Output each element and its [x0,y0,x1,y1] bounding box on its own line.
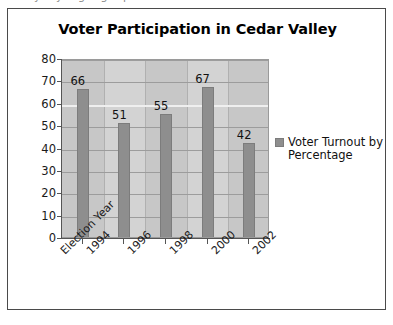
x-axis-tick [165,239,166,244]
x-axis-tick [123,239,124,244]
bar-1998 [160,114,172,237]
y-axis-tick [57,126,62,127]
chart-figure-frame: Voter Participation in Cedar Valley 8070… [7,8,386,310]
bar-1994 [77,89,89,237]
bar-value-label-1994: 66 [70,74,85,88]
clipped-text-sliver: y y g g p [0,0,393,7]
y-axis-tick-label: 30 [12,164,56,178]
legend-label: Voter Turnout by Percentage [288,136,383,162]
y-axis-tick [57,104,62,105]
plot-area [61,59,269,238]
vertical-gridline [145,60,146,237]
vertical-gridline [187,60,188,237]
x-axis-tick [207,239,208,244]
bar-1996 [118,123,130,237]
y-axis-tick-label: 80 [12,52,56,66]
bar-2000 [202,87,214,237]
y-axis-tick [57,149,62,150]
y-axis-labels: 80706050403020100 [8,9,56,311]
legend-color-swatch [275,138,284,147]
y-axis-tick [57,81,62,82]
vertical-gridline [228,60,229,237]
y-axis-tick-label: 10 [12,209,56,223]
chart-title: Voter Participation in Cedar Valley [8,21,387,37]
clipped-text: y y g g p [34,0,136,3]
x-axis-tick [248,239,249,244]
y-axis-tick [57,171,62,172]
y-axis-tick-label: 60 [12,97,56,111]
bar-value-label-2002: 42 [237,128,252,142]
bar-value-label-2000: 67 [195,72,210,86]
y-axis-tick-label: 20 [12,186,56,200]
bar-value-label-1998: 55 [154,99,169,113]
horizontal-gridline [62,60,268,61]
y-axis-tick [57,216,62,217]
horizontal-gridline [62,82,268,83]
y-axis-tick [57,193,62,194]
bar-2002 [243,143,255,237]
bar-value-label-1996: 51 [112,108,127,122]
y-axis-tick [57,59,62,60]
y-axis-tick-label: 40 [12,142,56,156]
y-axis-tick-label: 70 [12,74,56,88]
y-axis-tick [57,238,62,239]
y-axis-tick-label: 0 [12,231,56,245]
chart-legend: Voter Turnout by Percentage [275,136,383,162]
y-axis-tick-label: 50 [12,119,56,133]
